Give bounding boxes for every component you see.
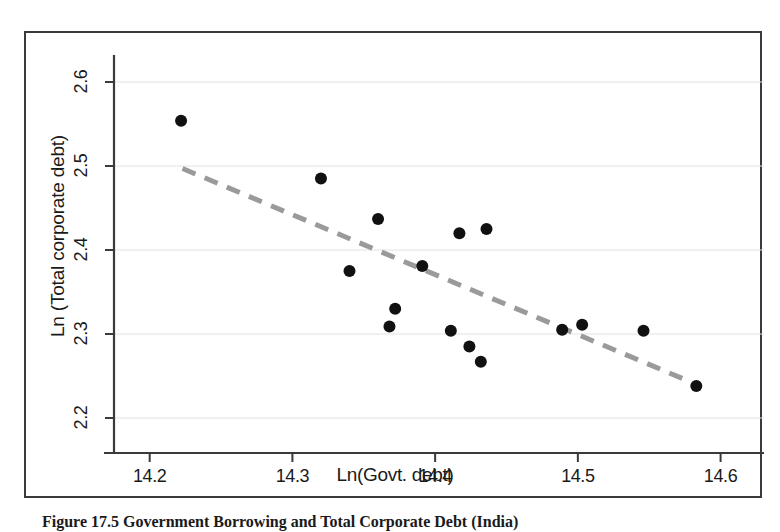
plot-frame: 2.22.32.42.52.6 14.214.314.414.514.6 Ln … xyxy=(24,31,762,498)
data-point-3 xyxy=(372,213,384,225)
data-point-11 xyxy=(481,223,493,235)
trendline xyxy=(183,169,691,382)
data-point-6 xyxy=(416,260,428,272)
y-tick-label: 2.5 xyxy=(71,143,92,189)
y-axis-title: Ln (Total corporate debt) xyxy=(47,86,69,386)
y-tick-label: 2.2 xyxy=(71,395,92,441)
data-point-1 xyxy=(315,173,327,185)
figure-caption: Figure 17.5 Government Borrowing and Tot… xyxy=(42,513,742,531)
data-point-4 xyxy=(383,320,395,332)
plot-canvas xyxy=(26,33,764,500)
y-tick-label: 2.6 xyxy=(71,59,92,105)
data-point-13 xyxy=(576,319,588,331)
data-point-0 xyxy=(175,115,187,127)
data-point-10 xyxy=(475,356,487,368)
data-point-8 xyxy=(453,227,465,239)
data-point-9 xyxy=(463,341,475,353)
figure-root: 2.22.32.42.52.6 14.214.314.414.514.6 Ln … xyxy=(0,0,780,532)
y-tick-label: 2.3 xyxy=(71,311,92,357)
y-tick-label: 2.4 xyxy=(71,227,92,273)
data-point-14 xyxy=(638,325,650,337)
data-point-7 xyxy=(445,325,457,337)
x-axis-title: Ln(Govt. debt) xyxy=(26,464,764,486)
data-point-15 xyxy=(690,380,702,392)
data-point-12 xyxy=(556,324,568,336)
data-point-5 xyxy=(389,303,401,315)
data-point-2 xyxy=(344,265,356,277)
